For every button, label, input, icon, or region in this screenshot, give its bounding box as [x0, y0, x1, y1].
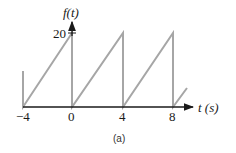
sawtooth-diagram: f(t) 20 −4 0 4 8 t (s) (a) — [0, 0, 236, 153]
waveform-line — [23, 33, 187, 107]
x-tick-label-0: 0 — [68, 109, 75, 124]
x-axis-label: t (s) — [198, 100, 219, 115]
y-tick-label: 20 — [53, 26, 66, 41]
x-tick-label-neg4: −4 — [16, 109, 30, 124]
x-tick-label-8: 8 — [169, 109, 176, 124]
figure-caption: (a) — [113, 133, 125, 144]
y-axis-label: f(t) — [63, 5, 79, 20]
x-tick-label-4: 4 — [119, 109, 126, 124]
